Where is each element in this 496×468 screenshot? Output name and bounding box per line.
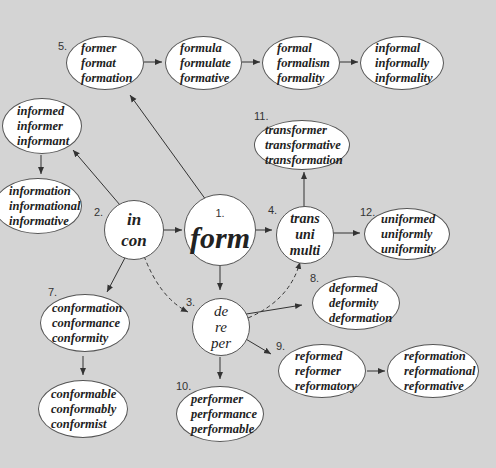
root-word: form bbox=[190, 221, 250, 255]
prefix-node-in-con: in con bbox=[104, 200, 164, 260]
word-node-reformation: reformation reformational reformative bbox=[387, 344, 479, 398]
word: conformance bbox=[52, 316, 120, 331]
word: informative bbox=[9, 214, 69, 229]
word: informant bbox=[17, 134, 69, 149]
word: reformational bbox=[404, 364, 476, 379]
word: transformer bbox=[265, 123, 327, 138]
word: formulate bbox=[180, 56, 231, 71]
word: reformer bbox=[295, 364, 341, 379]
word: conformably bbox=[51, 402, 116, 417]
prefix: in bbox=[127, 209, 141, 230]
word-node-formula: formula formulate formative bbox=[165, 36, 242, 90]
word: formal bbox=[277, 41, 312, 56]
word: informality bbox=[375, 71, 433, 86]
word-node-conformation: conformation conformance conformity bbox=[40, 294, 130, 352]
word: formalism bbox=[277, 56, 330, 71]
word-node-reformed: reformed reformer reformatory bbox=[278, 344, 366, 398]
word: format bbox=[81, 56, 116, 71]
node-number: 5. bbox=[58, 40, 67, 52]
word: informal bbox=[375, 41, 420, 56]
word: informally bbox=[375, 56, 429, 71]
word: conformable bbox=[51, 387, 116, 402]
word: conformity bbox=[52, 331, 108, 346]
word: performer bbox=[191, 392, 243, 407]
node-number: 1. bbox=[215, 206, 224, 221]
word: formation bbox=[81, 71, 132, 86]
word: reformative bbox=[404, 379, 464, 394]
word: information bbox=[9, 184, 71, 199]
node-number: 8. bbox=[310, 272, 319, 284]
word: transformation bbox=[265, 153, 343, 168]
word: formula bbox=[180, 41, 222, 56]
prefix: trans bbox=[290, 211, 320, 227]
word: informed bbox=[17, 104, 64, 119]
word: uniformed bbox=[381, 212, 435, 227]
word: performance bbox=[191, 407, 257, 422]
word: deformed bbox=[329, 281, 378, 296]
node-number: 9. bbox=[276, 340, 285, 352]
word-node-former: former format formation bbox=[66, 36, 144, 90]
word: performable bbox=[191, 422, 254, 437]
word-node-informed: informed informer informant bbox=[2, 98, 82, 154]
node-number: 7. bbox=[48, 286, 57, 298]
word: informational bbox=[9, 199, 81, 214]
prefix: de bbox=[214, 303, 228, 319]
word: reformatory bbox=[295, 379, 357, 394]
prefix: multi bbox=[290, 243, 320, 259]
word: formality bbox=[277, 71, 324, 86]
word: former bbox=[81, 41, 116, 56]
word: uniformly bbox=[381, 227, 432, 242]
word-node-informal: informal informally informality bbox=[360, 36, 444, 90]
word: transformative bbox=[265, 138, 341, 153]
word-node-deformed: deformed deformity deformation bbox=[312, 276, 400, 330]
prefix-node-trans-uni-multi: trans uni multi bbox=[276, 206, 334, 264]
word-node-formal: formal formalism formality bbox=[262, 36, 340, 90]
word: formative bbox=[180, 71, 229, 86]
prefix: uni bbox=[295, 227, 314, 243]
prefix: re bbox=[215, 319, 227, 335]
center-node-form: 1. form bbox=[184, 194, 256, 266]
word-node-performer: performer performance performable bbox=[176, 386, 264, 442]
word: reformed bbox=[295, 349, 342, 364]
word-node-transformer: transformer transformative transformatio… bbox=[254, 120, 350, 170]
node-number: 4. bbox=[268, 204, 277, 216]
word: informer bbox=[17, 119, 63, 134]
prefix-node-de-re-per: de re per bbox=[192, 298, 250, 356]
word: deformity bbox=[329, 296, 378, 311]
word: conformation bbox=[52, 301, 122, 316]
word: uniformity bbox=[381, 242, 436, 257]
word: reformation bbox=[404, 349, 466, 364]
word-family-diagram: 5. former format formation formula formu… bbox=[0, 0, 496, 468]
word: deformation bbox=[329, 311, 392, 326]
node-number: 2. bbox=[94, 206, 103, 218]
word-node-uniformed: uniformed uniformly uniformity bbox=[364, 208, 450, 260]
node-number: 11. bbox=[254, 110, 268, 122]
node-number: 10. bbox=[176, 380, 191, 392]
prefix: per bbox=[211, 335, 231, 351]
node-number: 12. bbox=[360, 206, 375, 218]
node-number: 3. bbox=[186, 296, 195, 308]
word-node-conformable: conformable conformably conformist bbox=[38, 380, 128, 438]
prefix: con bbox=[121, 230, 147, 251]
word: conformist bbox=[51, 417, 107, 432]
